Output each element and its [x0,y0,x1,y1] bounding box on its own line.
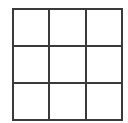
cell-0-1[interactable] [49,9,85,46]
cell-0-0[interactable] [13,9,49,46]
cell-0-2[interactable] [86,9,122,46]
cell-2-1[interactable] [49,83,85,120]
tic-tac-toe-board [12,8,123,121]
cell-2-2[interactable] [86,83,122,120]
cell-1-0[interactable] [13,46,49,83]
cell-2-0[interactable] [13,83,49,120]
cell-1-2[interactable] [86,46,122,83]
cell-1-1[interactable] [49,46,85,83]
